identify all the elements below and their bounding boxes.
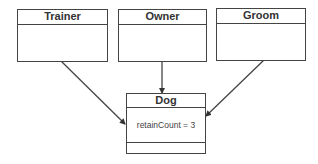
class-dog-name: Dog [127, 94, 205, 108]
class-groom-name: Groom [217, 9, 305, 24]
class-trainer-name: Trainer [18, 10, 107, 25]
arrow-trainer-to-dog [61, 61, 125, 124]
class-groom: Groom [216, 8, 306, 61]
arrow-groom-to-dog [206, 60, 264, 116]
class-owner: Owner [118, 9, 207, 62]
class-owner-name: Owner [119, 10, 206, 25]
class-trainer: Trainer [17, 9, 108, 62]
class-dog-methods-section [127, 142, 205, 153]
class-dog-attribute: retainCount = 3 [127, 120, 205, 130]
class-dog: Dog retainCount = 3 [126, 93, 206, 154]
